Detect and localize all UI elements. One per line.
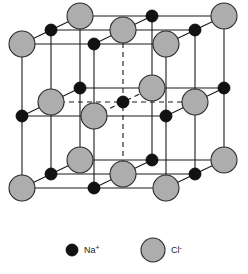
cl-ion: [153, 175, 179, 201]
cl-ion: [182, 89, 208, 115]
legend-charge-cl: -: [180, 244, 183, 251]
na-ion: [218, 82, 230, 94]
na-ion: [189, 24, 201, 36]
cl-ion: [139, 75, 165, 101]
na-ion: [88, 38, 100, 50]
cl-ion: [67, 147, 93, 173]
na-ion: [146, 10, 158, 22]
na-ion: [16, 110, 28, 122]
cl-ion: [211, 147, 237, 173]
na-ion: [189, 168, 201, 180]
cl-ion: [9, 31, 35, 57]
legend-item-na: Na+: [66, 244, 100, 257]
nacl-lattice-diagram: Na+Cl-: [0, 0, 248, 274]
crystal-lattice-figure: Na+Cl-: [0, 0, 248, 274]
ion-group: [9, 3, 237, 201]
cl-ion: [153, 31, 179, 57]
cl-ion: [9, 175, 35, 201]
na-ion: [146, 154, 158, 166]
legend: Na+Cl-: [66, 238, 183, 262]
na-ion: [45, 24, 57, 36]
legend-item-cl: Cl-: [141, 238, 183, 262]
na-ion: [45, 168, 57, 180]
cl-ion: [110, 17, 136, 43]
na-ion: [88, 182, 100, 194]
legend-charge-na: +: [96, 244, 100, 251]
cl-ion: [81, 103, 107, 129]
cl-ion: [38, 89, 64, 115]
cl-ion: [67, 3, 93, 29]
cl-ion: [110, 161, 136, 187]
na-ion: [117, 96, 129, 108]
cl-ion-marker: [141, 238, 165, 262]
na-ion: [160, 110, 172, 122]
legend-label-na: Na+: [84, 244, 100, 256]
na-ion-marker: [66, 244, 78, 256]
legend-label-cl: Cl-: [171, 244, 183, 256]
na-ion: [74, 82, 86, 94]
cl-ion: [211, 3, 237, 29]
